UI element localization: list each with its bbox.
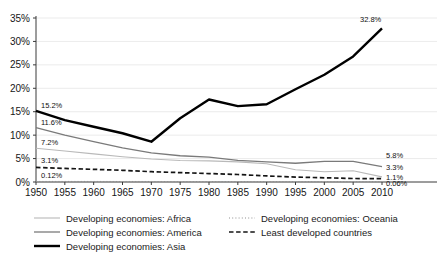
line-chart: 0%5%10%15%20%25%30%35% 19501955196019651… (0, 0, 437, 262)
x-tick-label: 1975 (169, 187, 192, 198)
y-tick-label: 35% (10, 13, 30, 24)
gridlines (36, 18, 437, 159)
series-line-3 (36, 167, 382, 178)
x-tick-label: 1980 (198, 187, 221, 198)
right-label-asia: 32.8% (360, 15, 382, 24)
start-label-1: 0.12% (41, 171, 63, 180)
x-tick-label: 1970 (140, 187, 163, 198)
x-tick-label: 2000 (313, 187, 336, 198)
y-tick-label: 0% (16, 177, 31, 188)
x-tick-label: 2010 (371, 187, 394, 198)
right-label-america: 3.3% (386, 163, 403, 172)
start-label-3: 3.1% (41, 156, 58, 165)
start-label-4: 15.2% (41, 101, 63, 110)
x-tick-label: 2005 (342, 187, 365, 198)
x-tick-label: 1995 (284, 187, 307, 198)
right-label-oceania: 0.06% (386, 179, 408, 188)
start-label-2: 11.6% (41, 118, 62, 127)
legend-label-right-0: Developing economies: Oceania (261, 213, 398, 224)
series-line-4 (36, 28, 382, 141)
right-label-extra: 5.8% (386, 151, 403, 160)
start-label-0: 7.2% (41, 138, 58, 147)
series-line-0 (36, 148, 382, 177)
y-tick-label: 25% (10, 59, 30, 70)
x-axis-ticks: 1950195519601965197019751980198519901995… (25, 182, 394, 198)
x-tick-label: 1990 (256, 187, 279, 198)
y-tick-label: 20% (10, 83, 30, 94)
y-tick-label: 15% (10, 106, 30, 117)
x-tick-label: 1960 (83, 187, 106, 198)
legend-label-left-2: Developing economies: Asia (66, 241, 186, 252)
chart-svg: 0%5%10%15%20%25%30%35% 19501955196019651… (0, 0, 437, 262)
legend-label-right-1: Least developed countries (261, 227, 372, 238)
axes (36, 16, 437, 182)
x-tick-label: 1955 (54, 187, 77, 198)
x-tick-label: 1965 (111, 187, 134, 198)
y-tick-label: 30% (10, 36, 30, 47)
chart-legend: Developing economies: AfricaDeveloping e… (34, 213, 398, 252)
y-tick-label: 10% (10, 130, 30, 141)
legend-label-left-0: Developing economies: Africa (66, 213, 192, 224)
x-tick-label: 1950 (25, 187, 48, 198)
y-axis-ticks: 0%5%10%15%20%25%30%35% (10, 13, 36, 188)
x-tick-label: 1985 (227, 187, 250, 198)
y-tick-label: 5% (16, 153, 31, 164)
legend-label-left-1: Developing economies: America (66, 227, 202, 238)
